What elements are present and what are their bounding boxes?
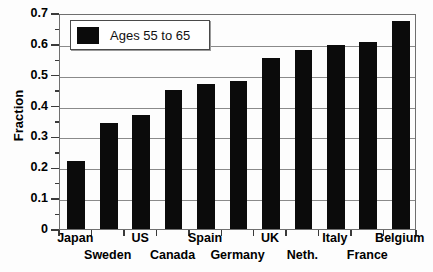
legend: Ages 55 to 65 [70,20,210,50]
y-tick-label: 0.6 [0,37,48,51]
bar-germany [230,81,248,229]
bar-us [132,115,150,229]
bar-sweden [100,123,118,229]
legend-label: Ages 55 to 65 [110,28,190,43]
y-tick-label: 0.1 [0,191,48,205]
bar-japan [67,161,85,229]
x-axis-label-neth: Neth. [287,248,318,262]
x-axis-label-germany: Germany [210,248,264,262]
y-tick-label: 0.2 [0,160,48,174]
y-tick-label: 0.3 [0,129,48,143]
x-axis-label-italy: Italy [322,231,347,245]
x-axis-label-canada: Canada [150,248,195,262]
legend-swatch-ages-55-to-65 [77,27,99,44]
y-tick-mark [51,13,59,15]
bar-spain [197,84,215,229]
x-tick-mark [156,230,158,236]
x-tick-mark [123,230,125,236]
x-axis-label-uk: UK [261,231,279,245]
bar-belgium [392,21,410,229]
x-tick-mark [318,230,320,236]
bar-canada [165,90,183,229]
y-tick-label: 0 [0,222,48,236]
y-tick-mark [51,137,59,139]
bar-italy [327,45,345,229]
y-tick-mark [51,198,59,200]
bar-neth [295,50,313,229]
y-tick-mark [51,168,59,170]
bar-france [359,42,377,229]
x-axis-label-us: US [131,231,148,245]
y-tick-label: 0.5 [0,68,48,82]
y-tick-label: 0.7 [0,6,48,20]
x-tick-mark [253,230,255,236]
y-tick-mark [51,106,59,108]
x-axis-label-japan: Japan [57,231,93,245]
x-tick-mark [285,230,287,236]
x-tick-mark [350,230,352,236]
y-tick-mark [51,75,59,77]
x-axis-label-belgium: Belgium [375,231,424,245]
bar-chart: Fraction 00.10.20.30.40.50.60.7 JapanSwe… [0,0,433,272]
y-tick-mark [51,44,59,46]
x-axis-label-france: France [347,248,388,262]
y-tick-label: 0.4 [0,99,48,113]
x-axis-label-sweden: Sweden [84,248,131,262]
x-axis-label-spain: Spain [188,231,222,245]
bar-uk [262,58,280,229]
